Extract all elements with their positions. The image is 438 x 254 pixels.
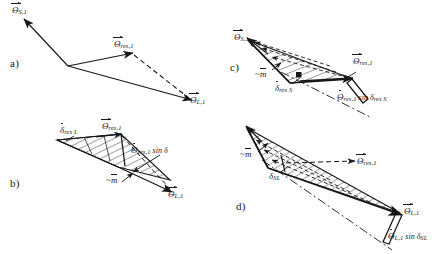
label-theta-res1-d: Θres,1	[357, 157, 377, 167]
sin-operator: sin	[151, 146, 164, 155]
label-theta-s1-c: ΘS,1	[234, 33, 249, 43]
panel-a-letter: a)	[10, 58, 19, 69]
theta-glyph: Θ	[168, 190, 175, 199]
label-theta-s1-a: ΘS,1	[12, 6, 27, 16]
subscript-res1: res,1	[109, 124, 122, 131]
label-theta-res1-sin-delta-b: Θres,1 sin δ	[131, 146, 168, 156]
subscript-res-s: res S	[374, 95, 387, 102]
subscript-res1: res,1	[360, 59, 373, 66]
delta-glyph: δ	[60, 126, 64, 135]
label-theta-l1-b: ΘL,1	[168, 190, 183, 200]
theta-glyph: Θ	[337, 93, 344, 102]
panel-d-graphics	[246, 126, 402, 250]
arrow-theta-res1-a	[68, 53, 133, 66]
label-tilde-m-b: ~m	[106, 176, 117, 185]
label-tilde-m-c: ~m	[255, 70, 266, 79]
theta-glyph: Θ	[404, 207, 411, 216]
theta-glyph: Θ	[357, 157, 364, 166]
theta-glyph: Θ	[12, 6, 19, 15]
label-delta-sl-d: δSL	[269, 172, 280, 182]
arrow-theta-l1-a	[68, 66, 192, 100]
arrow-theta-s1-a	[24, 19, 68, 66]
subscript-res1: res,1	[344, 95, 357, 102]
m-glyph: m	[245, 150, 252, 159]
sin-operator: sin	[403, 232, 416, 241]
label-theta-res1-b: Θres,1	[102, 122, 122, 132]
subscript-l1: L,1	[395, 234, 404, 241]
label-theta-res1-a: Θres,1	[114, 40, 134, 50]
dashed-closure-a	[134, 55, 190, 99]
panel-a-graphics	[24, 19, 192, 100]
angle-marker-c	[296, 72, 302, 78]
label-tilde-m-d: ~m	[240, 150, 251, 159]
subscript-res-s: res S	[279, 86, 292, 93]
theta-glyph: Θ	[190, 96, 197, 105]
label-delta-res-l-b: δres L	[60, 126, 78, 136]
subscript-l1: L,1	[197, 98, 206, 105]
label-theta-res1-sin-delta-res-s-c: Θres,1 sin δres S	[337, 93, 387, 103]
label-theta-l1-a: ΘL,1	[190, 96, 205, 106]
label-theta-l1-d: ΘL,1	[404, 207, 419, 217]
label-theta-res1-c: Θres,1	[353, 57, 373, 67]
leader-theta-res1-c	[348, 72, 356, 77]
theta-glyph: Θ	[353, 57, 360, 66]
figure-canvas: a) b) c) d) ΘS,1 Θres,1 ΘL,1 δres L Θres…	[0, 0, 438, 254]
subscript-res1: res,1	[138, 148, 151, 155]
subscript-s1: S,1	[241, 35, 249, 42]
subscript-sl: SL	[273, 174, 280, 181]
panel-b-letter: b)	[10, 178, 20, 189]
m-glyph: m	[111, 176, 118, 185]
panel-d-letter: d)	[236, 201, 246, 212]
delta-glyph: δ	[164, 146, 168, 155]
theta-glyph: Θ	[234, 33, 241, 42]
theta-glyph: Θ	[388, 232, 395, 241]
subscript-res1: res,1	[364, 159, 377, 166]
delta-glyph: δ	[275, 84, 279, 93]
subscript-l1: L,1	[175, 192, 184, 199]
panel-c-letter: c)	[230, 62, 239, 73]
theta-glyph: Θ	[131, 146, 138, 155]
subscript-l1: L,1	[411, 209, 420, 216]
fan-arrow-d-3	[272, 160, 370, 202]
subscript-res-l: res L	[64, 128, 77, 135]
sin-operator: sin	[357, 93, 370, 102]
arrow-theta-l1-d	[268, 168, 402, 215]
theta-glyph: Θ	[114, 40, 121, 49]
theta-glyph: Θ	[102, 122, 109, 131]
label-delta-res-s-c: δres S	[275, 84, 292, 94]
label-theta-l1-sin-delta-sl-d: ΘL,1 sin δSL	[388, 232, 427, 242]
m-glyph: m	[260, 70, 267, 79]
subscript-s1: S,1	[19, 8, 27, 15]
leader-tilde-m-b	[122, 173, 133, 182]
subscript-res1: res,1	[121, 42, 134, 49]
delta-glyph: δ	[269, 172, 273, 181]
subscript-sl: SL	[420, 234, 427, 241]
